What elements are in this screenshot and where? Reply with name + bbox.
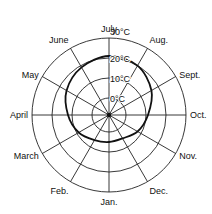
tick-label-20: 20°C [110, 54, 131, 64]
tick-label-10: 10°C [110, 74, 131, 84]
month-label-april: April [10, 110, 28, 120]
center-dot [107, 113, 111, 117]
month-label-may: May [22, 70, 40, 80]
month-label-sept: Sept. [179, 70, 200, 80]
month-label-aug: Aug. [150, 35, 169, 45]
month-label-feb: Feb. [50, 186, 68, 196]
month-label-march: March [14, 151, 39, 161]
month-label-july: July [101, 24, 118, 34]
month-label-nov: Nov. [179, 151, 197, 161]
polar-temperature-chart: 0°C10°C20°C30°C Jan.Feb.MarchAprilMayJun… [0, 0, 212, 214]
tick-label-0: 0°C [110, 94, 126, 104]
month-label-june: June [49, 35, 69, 45]
month-label-oct: Oct. [190, 110, 207, 120]
month-label-jan: Jan. [100, 197, 117, 207]
month-label-dec: Dec. [150, 186, 169, 196]
